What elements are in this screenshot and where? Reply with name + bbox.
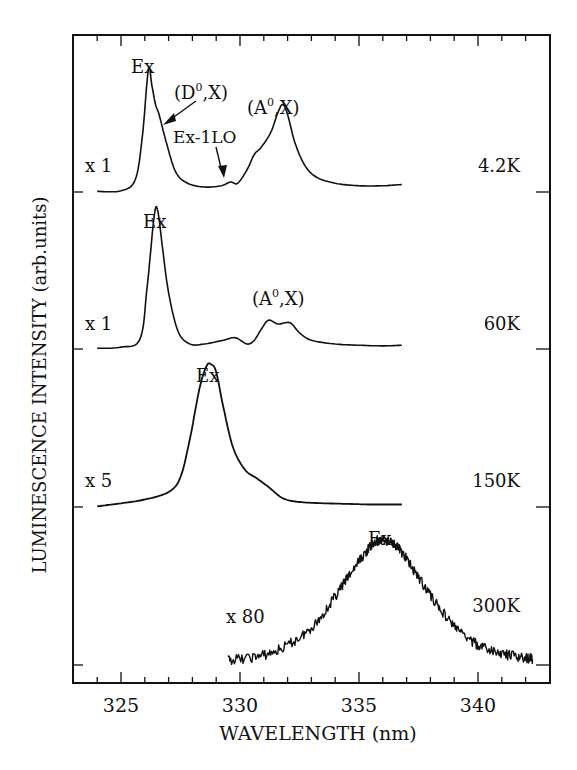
annotation-a0x-4.2K: (A0,X) xyxy=(247,96,300,118)
y-axis-title: LUMINESCENCE INTENSITY (arb.units) xyxy=(29,196,50,573)
annotation-ex-150K: Ex xyxy=(196,365,219,386)
multiplier-label-60K: x 1 xyxy=(85,313,112,334)
annotation-ex-60K: Ex xyxy=(143,211,166,232)
annotation-d0x: (D0,X) xyxy=(174,81,228,103)
arrow-d0x-head xyxy=(163,113,176,125)
temperature-labels: 4.2K 60K 150K 300K xyxy=(472,155,520,616)
plot-frame xyxy=(73,35,550,683)
annotation-ex-4.2K: Ex xyxy=(131,56,154,77)
annotation-a0x-60K: (A0,X) xyxy=(252,287,305,309)
x-axis-ticks-top xyxy=(97,35,525,46)
multiplier-label-300K: x 80 xyxy=(226,606,265,627)
temperature-label-4.2K: 4.2K xyxy=(478,155,521,176)
x-tick-label: 330 xyxy=(222,694,258,716)
spectrum-4.2K xyxy=(97,67,402,191)
x-tick-label: 335 xyxy=(341,694,377,716)
spectrum-150K xyxy=(97,363,402,506)
temperature-label-300K: 300K xyxy=(472,595,520,616)
arrow-ex-1lo-head xyxy=(218,165,227,178)
annotation-ex-300K: Ex xyxy=(368,528,391,549)
x-tick-labels: 325 330 335 340 xyxy=(103,694,496,716)
multiplier-labels: x 1 x 1 x 5 x 80 xyxy=(85,155,265,627)
temperature-label-60K: 60K xyxy=(484,313,521,334)
temperature-label-150K: 150K xyxy=(472,470,520,491)
multiplier-label-4.2K: x 1 xyxy=(85,155,112,176)
annotation-ex-1lo: Ex-1LO xyxy=(173,127,236,147)
x-tick-label: 325 xyxy=(103,694,139,716)
x-axis-title: WAVELENGTH (nm) xyxy=(219,722,417,744)
multiplier-label-150K: x 5 xyxy=(85,470,112,491)
x-axis-ticks-bottom xyxy=(97,672,525,683)
x-tick-label: 340 xyxy=(460,694,496,716)
luminescence-chart: 325 330 335 340 WAVELENGTH (nm) LUMINESC… xyxy=(0,0,577,770)
